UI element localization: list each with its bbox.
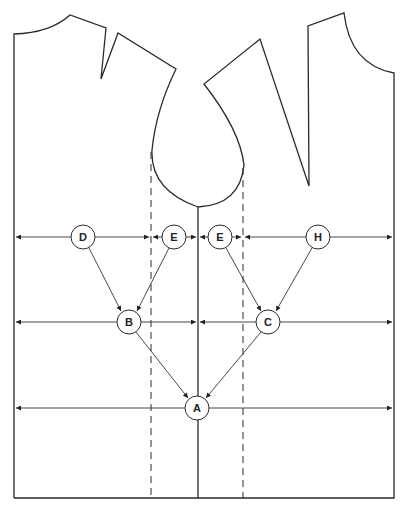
back-bodice-outline — [14, 15, 198, 498]
node-label: H — [314, 231, 322, 243]
node-e-right: E — [208, 225, 232, 249]
node-c: C — [256, 310, 280, 334]
nodes: D E E H B C A — [71, 225, 330, 420]
node-label: C — [264, 316, 272, 328]
edge-c-a — [206, 332, 261, 398]
node-label: E — [216, 231, 223, 243]
edge-d-b — [89, 248, 121, 311]
node-label: D — [79, 231, 87, 243]
pattern-diagram: D E E H B C A — [0, 0, 407, 511]
node-label: B — [125, 316, 133, 328]
node-e-left: E — [162, 225, 186, 249]
measure-lines — [16, 237, 392, 408]
node-d: D — [71, 225, 95, 249]
node-h: H — [306, 225, 330, 249]
pattern-outline — [14, 13, 394, 498]
node-label: E — [170, 231, 177, 243]
dashed-guides — [151, 152, 243, 498]
edge-b-a — [136, 332, 188, 398]
node-a: A — [185, 396, 209, 420]
diagram-canvas: D E E H B C A — [0, 0, 407, 511]
edge-e-b — [137, 248, 169, 311]
node-label: A — [193, 402, 201, 414]
edge-h-c — [276, 248, 312, 311]
front-bodice-outline — [14, 13, 394, 498]
node-b: B — [117, 310, 141, 334]
